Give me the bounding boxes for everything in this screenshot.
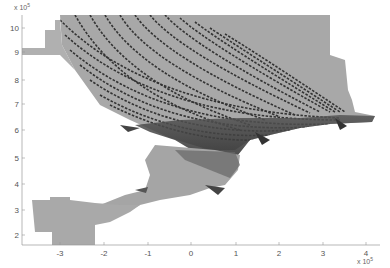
x-tick-label: -3: [56, 249, 64, 258]
x-tick-label: -1: [144, 249, 152, 258]
y-tick-label: 6: [15, 126, 20, 135]
y-tick-label: 3: [15, 206, 20, 215]
y-multiplier-text: x 10: [14, 4, 27, 11]
x-tick-label: 3: [321, 249, 326, 258]
map-figure: 10 9 8 7 6 5 4 3 2 -3 -2 -1 0 1 2 3 4: [0, 0, 390, 268]
y-axis-labels: 10 9 8 7 6 5 4 3 2: [10, 24, 19, 240]
y-tick-label: 5: [15, 154, 20, 163]
y-tick-label: 7: [15, 100, 20, 109]
y-tick-label: 4: [15, 180, 20, 189]
y-axis-multiplier: x 105: [14, 2, 30, 11]
y-tick-label: 2: [15, 231, 20, 240]
x-tick-label: 0: [189, 249, 194, 258]
x-tick-label: -2: [100, 249, 108, 258]
x-multiplier-exponent: 5: [370, 256, 373, 262]
coast-spike: [205, 185, 225, 195]
y-tick-label: 8: [15, 76, 20, 85]
y-tick-label: 10: [10, 24, 19, 33]
x-axis-multiplier: x 105: [357, 256, 373, 265]
x-axis-labels: -3 -2 -1 0 1 2 3 4: [56, 249, 368, 258]
x-tick-label: 1: [234, 249, 239, 258]
y-tick-label: 9: [15, 48, 20, 57]
coast-spike: [120, 125, 140, 132]
x-axis-ticks: [60, 242, 366, 245]
y-axis-ticks: [22, 28, 25, 235]
x-multiplier-text: x 10: [357, 258, 370, 265]
x-tick-label: 2: [277, 249, 282, 258]
y-multiplier-exponent: 5: [27, 2, 30, 8]
